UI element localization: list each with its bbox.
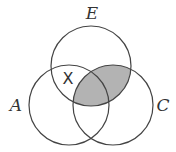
- label-e: E: [85, 3, 99, 23]
- label-c: C: [156, 95, 169, 115]
- venn-diagram: E A C X: [0, 0, 176, 152]
- label-a: A: [8, 95, 22, 115]
- marker-x: X: [63, 69, 74, 88]
